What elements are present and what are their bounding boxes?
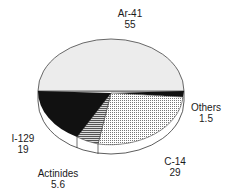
label-actinides: Actinides 5.6 [33,168,83,190]
slice-c14 [98,93,183,145]
pie-chart: Ar-41 55 Others 1.5 C-14 29 Actinides 5.… [0,0,242,192]
label-others: Others 1.5 [186,102,226,124]
label-ar41: Ar-41 55 [110,8,150,30]
label-i129: I-129 19 [8,133,38,155]
slice-ar41 [38,39,184,91]
label-c14: C-14 29 [160,156,190,178]
